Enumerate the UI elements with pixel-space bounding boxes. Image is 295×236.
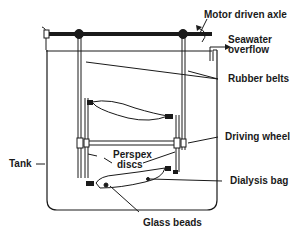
label-tank: Tank bbox=[9, 159, 32, 169]
label-driving-wheel: Driving wheel bbox=[225, 132, 290, 142]
label-rubber-belts: Rubber belts bbox=[228, 74, 289, 84]
label-discs: discs bbox=[117, 160, 143, 170]
label-dialysis-bag: Dialysis bag bbox=[230, 176, 288, 186]
label-overflow: overflow bbox=[228, 45, 269, 55]
left-pulley bbox=[75, 30, 84, 39]
right-pulley bbox=[179, 30, 188, 39]
driving-shaft bbox=[88, 141, 176, 145]
upper-dialysis-bag bbox=[92, 101, 168, 120]
label-motor-driven-axle: Motor driven axle bbox=[204, 10, 287, 20]
tank-outline bbox=[47, 50, 217, 210]
label-glass-beads: Glass beads bbox=[143, 218, 202, 228]
